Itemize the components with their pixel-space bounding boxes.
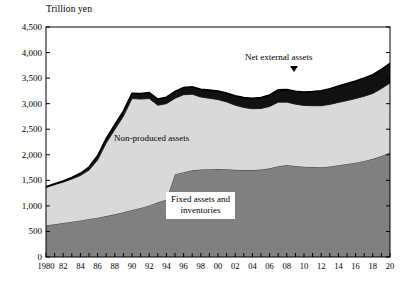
y-tick-label: 1,500 [2, 175, 42, 185]
x-tick-label: 06 [265, 261, 274, 271]
x-tick-label: 98 [197, 261, 206, 271]
fixed-assets-label-line1: Fixed assets and [171, 194, 230, 205]
x-tick-label: 1980 [38, 261, 55, 271]
x-tick-label: 94 [162, 261, 171, 271]
down-arrow-icon [290, 66, 298, 72]
chart-figure: Trillion yen 05001,0001,5002,0002,5003,0… [0, 0, 409, 286]
x-tick-label: 14 [334, 261, 343, 271]
y-tick-label: 4,500 [2, 22, 42, 32]
x-tick-label: 20 [386, 261, 395, 271]
x-tick-label: 12 [317, 261, 326, 271]
x-tick-label: 90 [128, 261, 137, 271]
net-external-assets-label: Net external assets [245, 52, 312, 62]
y-tick-label: 3,500 [2, 73, 42, 83]
x-tick-label: 92 [145, 261, 154, 271]
x-tick-label: 02 [231, 261, 240, 271]
y-tick-label: 1,000 [2, 201, 42, 211]
x-tick-label: 96 [179, 261, 188, 271]
y-tick-label: 0 [2, 252, 42, 262]
non-produced-assets-label: Non-produced assets [114, 133, 189, 143]
fixed-assets-label-line2: inventories [171, 205, 230, 216]
x-tick-label: 88 [111, 261, 120, 271]
stacked-area-chart [0, 0, 409, 286]
y-tick-label: 2,000 [2, 150, 42, 160]
y-tick-label: 4,000 [2, 48, 42, 58]
x-tick-label: 04 [248, 261, 257, 271]
x-axis-ticks [46, 253, 390, 257]
x-tick-label: 16 [351, 261, 360, 271]
chart-areas [46, 63, 390, 257]
y-tick-label: 2,500 [2, 124, 42, 134]
x-tick-label: 10 [300, 261, 309, 271]
fixed-assets-label: Fixed assets and inventories [166, 192, 235, 219]
x-tick-label: 86 [93, 261, 102, 271]
y-tick-label: 3,000 [2, 99, 42, 109]
x-tick-label: 18 [369, 261, 378, 271]
x-tick-label: 84 [76, 261, 85, 271]
x-tick-label: 00 [214, 261, 223, 271]
x-tick-label: 82 [59, 261, 68, 271]
y-tick-label: 500 [2, 226, 42, 236]
x-tick-label: 08 [283, 261, 292, 271]
